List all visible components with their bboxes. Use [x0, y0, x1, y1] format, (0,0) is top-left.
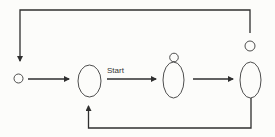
diagram-canvas: Start [0, 0, 275, 137]
edge-node4-to-node1-over-top [20, 10, 250, 61]
node-1-small-circle [14, 74, 23, 83]
node-3-ellipse [163, 62, 184, 98]
node-2-ellipse [78, 65, 101, 97]
edge-label-start: Start [107, 66, 125, 75]
diagram-svg: Start [0, 0, 275, 137]
node-4-ellipse [240, 62, 261, 98]
node-3-top-circle [170, 53, 179, 62]
edge-node4-to-node2-under-bottom [89, 98, 252, 128]
node-4-top-circle [245, 41, 255, 51]
